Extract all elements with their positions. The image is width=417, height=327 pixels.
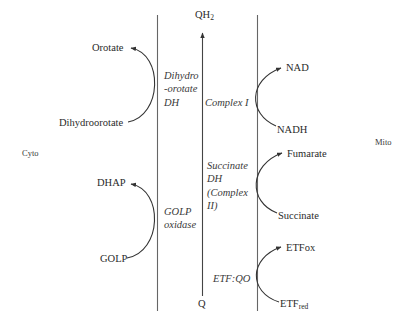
qh2-subscript: 2 — [210, 13, 214, 22]
nad-label: NAD — [286, 62, 309, 74]
dhodh-line-2: -orotate — [164, 82, 199, 95]
dhodh-line-1: Dihydro — [164, 69, 199, 82]
golp-oxidase-enzyme-label: GOLP oxidase — [164, 205, 196, 232]
fumarate-label: Fumarate — [287, 148, 327, 160]
sdh-line-2: DH — [207, 172, 248, 185]
etfred-base: ETF — [280, 298, 299, 309]
nadh-label: NADH — [277, 124, 307, 136]
golp-arc-arrow — [127, 184, 155, 258]
dhodh-enzyme-label: Dihydro -orotate DH — [164, 69, 199, 109]
dhap-label: DHAP — [97, 177, 126, 189]
dhodh-line-3: DH — [164, 96, 199, 109]
sdh-line-4: II) — [207, 199, 248, 212]
golp-oxidase-line-2: oxidase — [164, 218, 196, 231]
golp-oxidase-line-1: GOLP — [164, 205, 196, 218]
etfqo-enzyme-label: ETF:QO — [213, 272, 250, 285]
succinate-label: Succinate — [278, 210, 319, 222]
dihydroorotate-label: Dihydroorotate — [59, 117, 123, 129]
qh2-label: QH2 — [195, 9, 214, 21]
etfox-label: ETFox — [286, 242, 315, 254]
cyto-label: Cyto — [22, 148, 39, 158]
etfred-label: ETFred — [280, 298, 308, 310]
sdh-arc-arrow — [256, 153, 282, 213]
complex-i-enzyme-label: Complex I — [205, 96, 248, 109]
sdh-line-1: Succinate — [207, 159, 248, 172]
orotate-label: Orotate — [92, 42, 124, 54]
complex-i-arc-arrow — [256, 68, 281, 126]
sdh-enzyme-label: Succinate DH (Complex II) — [207, 159, 248, 212]
qh2-base: QH — [195, 9, 210, 20]
etfred-subscript: red — [299, 302, 309, 311]
mito-label: Mito — [375, 137, 392, 147]
etfqo-arc-arrow — [256, 247, 281, 302]
dhodh-arc-arrow — [128, 48, 155, 122]
golp-label: GOLP — [100, 253, 127, 265]
sdh-line-3: (Complex — [207, 186, 248, 199]
q-label: Q — [198, 298, 206, 310]
